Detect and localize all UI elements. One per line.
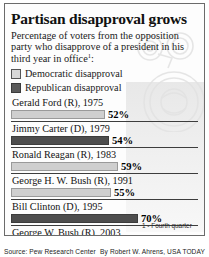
footnote-text: Fourth quarter xyxy=(151,222,192,229)
source-label: Source: Pew Research Center xyxy=(4,248,96,255)
bar-value-label: 55% xyxy=(114,187,135,198)
row-divider xyxy=(11,199,198,200)
row-label: Jimmy Carter (D), 1979 xyxy=(11,123,198,135)
footnote-marker: 1 xyxy=(142,222,146,229)
bar-line: 59% xyxy=(11,161,198,172)
bar-value-label: 52% xyxy=(108,109,129,120)
bar-republican xyxy=(11,136,109,145)
bar-democratic xyxy=(11,110,105,119)
bar-value-label: 59% xyxy=(121,161,142,172)
bar-democratic xyxy=(11,188,111,197)
chart-legend: Democratic disapproval Republican disapp… xyxy=(11,67,198,94)
bar-republican xyxy=(11,214,138,223)
row-label: Ronald Reagan (R), 1983 xyxy=(11,149,198,161)
chart-footnote: 1 - Fourth quarter xyxy=(142,222,200,229)
row-label: Bill Clinton (D), 1995 xyxy=(11,201,198,213)
row-divider xyxy=(11,121,198,122)
subtitle-text: Percentage of voters from the opposition… xyxy=(11,30,184,64)
chart-subtitle: Percentage of voters from the opposition… xyxy=(11,30,198,64)
bar-line: 55% xyxy=(11,187,198,198)
footnote-separator: - xyxy=(147,222,149,229)
page-title: Partisan disapproval grows xyxy=(11,11,198,27)
bar-line: 54% xyxy=(11,135,198,146)
legend-item-republican: Republican disapproval xyxy=(11,81,198,94)
byline-label: By Robert W. Ahrens, USA TODAY xyxy=(100,248,205,255)
subtitle-colon: : xyxy=(91,53,94,64)
row-label: George H. W. Bush (R), 1991 xyxy=(11,175,198,187)
legend-swatch-republican-icon xyxy=(11,83,21,93)
row-divider xyxy=(11,147,198,148)
bar-value-label: 54% xyxy=(112,135,133,146)
legend-label-republican: Republican disapproval xyxy=(25,82,121,93)
row-label: Gerald Ford (R), 1975 xyxy=(11,97,198,109)
chart-graphic: Partisan disapproval grows Percentage of… xyxy=(0,0,209,257)
bar-democratic xyxy=(11,162,118,171)
bar-line: 52% xyxy=(11,109,198,120)
chart-credits: Source: Pew Research Center By Robert W.… xyxy=(4,248,205,255)
chart-row: Jimmy Carter (D), 1979 54% xyxy=(11,123,198,148)
legend-swatch-democratic-icon xyxy=(11,69,21,79)
legend-label-democratic: Democratic disapproval xyxy=(25,68,123,79)
chart-row: George H. W. Bush (R), 1991 55% xyxy=(11,175,198,200)
chart-frame: Partisan disapproval grows Percentage of… xyxy=(4,3,205,236)
chart-row: Ronald Reagan (R), 1983 59% xyxy=(11,149,198,174)
legend-item-democratic: Democratic disapproval xyxy=(11,67,198,80)
bar-chart-rows: Gerald Ford (R), 1975 52% Jimmy Carter (… xyxy=(11,97,198,236)
chart-row: Gerald Ford (R), 1975 52% xyxy=(11,97,198,122)
row-divider xyxy=(11,173,198,174)
